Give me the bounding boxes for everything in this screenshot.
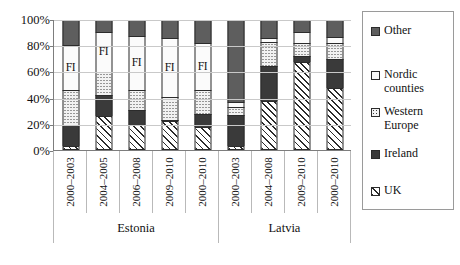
bar-segment[interactable] [62, 90, 79, 125]
legend-swatch-icon [371, 108, 380, 117]
legend-item[interactable]: Ireland [371, 147, 448, 161]
legend-item[interactable]: UK [371, 184, 448, 198]
stacked-bar[interactable]: FI [128, 20, 145, 150]
x-axis-category-label: 2004–2008 [263, 157, 274, 207]
bar-segment[interactable] [227, 107, 244, 115]
plot-area: 0%20%40%60%80%100% FIFIFIFIFI 2000–20032… [0, 0, 356, 265]
y-axis-tick-label: 20% [6, 119, 50, 132]
bar-segment[interactable] [62, 20, 79, 45]
x-axis-category-cell: 2009–2010 [152, 151, 185, 213]
y-axis-labels: 0%20%40%60%80%100% [6, 14, 50, 150]
bar-annotation-fi: FI [198, 62, 208, 74]
bar-segment[interactable] [128, 90, 145, 110]
bar-segment[interactable] [161, 120, 178, 121]
stacked-bar[interactable]: FI [194, 20, 211, 150]
y-axis-tick [50, 99, 54, 100]
legend: OtherNordic countiesWestern EuropeIrelan… [362, 11, 454, 210]
bar-segment[interactable] [62, 146, 79, 150]
y-axis-tick-label: 0% [6, 145, 50, 158]
bar-segment[interactable] [161, 20, 178, 38]
x-axis-group-labels: EstoniaLatvia [53, 213, 351, 243]
legend-item[interactable]: Nordic counties [371, 68, 448, 95]
bar-segment[interactable]: FI [62, 45, 79, 91]
bar-segment[interactable] [227, 115, 244, 146]
bar-segment[interactable] [326, 20, 343, 37]
bar-segment[interactable] [95, 72, 112, 95]
x-axis-group-label: Estonia [117, 222, 155, 235]
x-axis-category-cell: 2000–2003 [218, 151, 251, 213]
x-axis-category-label: 2004–2005 [98, 157, 109, 207]
bar-slot [219, 20, 252, 150]
stacked-bar[interactable] [326, 20, 343, 150]
bar-segment[interactable] [260, 38, 277, 42]
bar-segment[interactable] [62, 125, 79, 146]
x-axis-category-label: 2000–2010 [197, 157, 208, 207]
bar-segment[interactable] [161, 97, 178, 120]
y-axis-tick [50, 72, 54, 73]
y-axis-tick-label: 80% [6, 40, 50, 53]
bar-segment[interactable] [194, 127, 211, 150]
bar-segment[interactable]: FI [194, 43, 211, 90]
stacked-bar[interactable] [293, 20, 310, 150]
plot-axes: FIFIFIFIFI [53, 20, 351, 151]
bar-segment[interactable] [293, 20, 310, 32]
legend-swatch-icon [371, 27, 380, 36]
x-axis-category-cell: 2004–2008 [251, 151, 284, 213]
bar-segment[interactable] [326, 37, 343, 44]
bar-slot: FI [120, 20, 153, 150]
stacked-bar[interactable]: FI [62, 20, 79, 150]
y-axis-tick-label: 60% [6, 66, 50, 79]
bar-slot: FI [87, 20, 120, 150]
bar-slot: FI [186, 20, 219, 150]
bar-segment[interactable] [227, 20, 244, 102]
bar-segment[interactable] [95, 116, 112, 150]
bar-segment[interactable]: FI [95, 32, 112, 72]
x-axis-category-cell: 2006–2008 [119, 151, 152, 213]
bar-segment[interactable] [326, 88, 343, 150]
bar-segment[interactable] [194, 20, 211, 43]
bar-segment[interactable] [293, 56, 310, 61]
bar-slot: FI [153, 20, 186, 150]
legend-item[interactable]: Other [371, 24, 448, 38]
x-axis-category-labels: 2000–20032004–20052006–20082009–20102000… [53, 151, 351, 213]
x-axis-category-cell: 2009–2010 [284, 151, 317, 213]
x-axis-category-cell: 2000–2010 [185, 151, 218, 213]
x-axis-category-cell: 2000–2003 [53, 151, 86, 213]
gridline [54, 99, 351, 100]
bar-segment[interactable] [260, 20, 277, 38]
bar-segment[interactable] [128, 125, 145, 150]
bar-slot [252, 20, 285, 150]
stacked-bar[interactable] [227, 20, 244, 150]
bar-annotation-fi: FI [132, 58, 142, 70]
legend-item[interactable]: Western Europe [371, 105, 448, 132]
x-axis-category-label: 2000–2003 [230, 157, 241, 207]
bar-segment[interactable] [293, 62, 310, 150]
legend-label: UK [384, 184, 401, 198]
stacked-bar[interactable] [260, 20, 277, 150]
y-axis-tick-label: 40% [6, 92, 50, 105]
x-axis-category-label: 2000–2010 [329, 157, 340, 207]
legend-swatch-icon [371, 71, 380, 80]
legend-label: Ireland [384, 147, 418, 161]
bar-segment[interactable] [260, 66, 277, 101]
x-axis-group-cell: Estonia [53, 213, 218, 243]
gridline [54, 125, 351, 126]
x-axis-category-label: 2009–2010 [296, 157, 307, 207]
bar-segment[interactable] [128, 20, 145, 36]
stacked-bar[interactable]: FI [161, 20, 178, 150]
gridline [54, 20, 351, 21]
bar-segment[interactable] [293, 32, 310, 44]
bar-segment[interactable]: FI [128, 36, 145, 91]
bar-segment[interactable] [227, 146, 244, 150]
stacked-bar[interactable]: FI [95, 20, 112, 150]
gridline [54, 46, 351, 47]
bar-slot: FI [54, 20, 87, 150]
chart-figure: 0%20%40%60%80%100% FIFIFIFIFI 2000–20032… [0, 0, 460, 265]
x-axis-category-label: 2006–2008 [131, 157, 142, 207]
bar-segment[interactable] [227, 102, 244, 107]
bar-segment[interactable] [95, 20, 112, 32]
bar-segment[interactable] [194, 90, 211, 113]
bar-segment[interactable] [128, 110, 145, 126]
x-axis-category-cell: 2000–2010 [317, 151, 351, 213]
y-axis-tick [50, 20, 54, 21]
